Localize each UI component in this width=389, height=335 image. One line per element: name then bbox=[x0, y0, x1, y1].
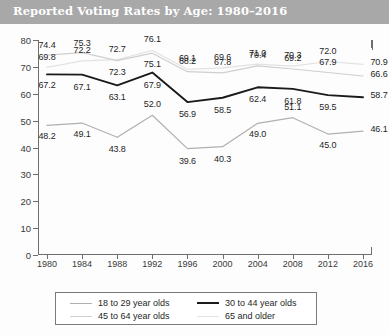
series-line-30-to-44-year-olds bbox=[47, 73, 363, 103]
page-title: Reported Voting Rates by Age: 1980–2016 bbox=[13, 4, 287, 18]
data-label: 52.0 bbox=[144, 99, 161, 109]
legend-line-icon bbox=[70, 303, 92, 304]
legend-line-icon bbox=[70, 316, 92, 317]
x-axis-tick-label: 2016 bbox=[343, 259, 383, 269]
data-label: 70.9 bbox=[370, 57, 387, 67]
data-label: 75.1 bbox=[144, 59, 161, 69]
data-label: 69.8 bbox=[38, 52, 55, 62]
y-axis-tick-label: 80 bbox=[5, 35, 31, 46]
legend-item-30-to-44-year-olds[interactable]: 30 to 44 year olds bbox=[197, 298, 297, 308]
x-axis-tick-mark bbox=[47, 255, 48, 259]
x-axis-tick-label: 2004 bbox=[238, 259, 278, 269]
data-label: 67.1 bbox=[74, 82, 91, 92]
data-label: 58.5 bbox=[214, 105, 231, 115]
y-axis-tick-label: 10 bbox=[5, 223, 31, 234]
x-axis-tick-mark bbox=[293, 255, 294, 259]
data-label: 39.6 bbox=[179, 156, 196, 166]
data-label: 72.0 bbox=[319, 46, 336, 56]
data-label: 74.4 bbox=[38, 40, 55, 50]
legend-line-icon bbox=[197, 302, 219, 304]
data-label: 48.2 bbox=[38, 131, 55, 141]
legend-label: 18 to 29 year olds bbox=[98, 298, 170, 308]
legend-line-icon bbox=[197, 316, 219, 317]
legend-item-65-and-older[interactable]: 65 and older bbox=[197, 311, 275, 321]
data-label: 72.7 bbox=[109, 44, 126, 54]
data-label: 66.6 bbox=[370, 69, 387, 79]
data-label: 67.9 bbox=[319, 57, 336, 67]
x-axis-tick-label: 1992 bbox=[132, 259, 172, 269]
data-label: 58.7 bbox=[370, 90, 387, 100]
legend-item-45-to-64-year-olds[interactable]: 45 to 64 year olds bbox=[70, 311, 170, 321]
x-axis-tick-mark bbox=[187, 255, 188, 259]
data-label: 76.1 bbox=[144, 34, 161, 44]
x-axis-tick-label: 1996 bbox=[167, 259, 207, 269]
x-axis-tick-label: 1980 bbox=[27, 259, 67, 269]
data-label: 61.8 bbox=[284, 96, 301, 106]
data-label: 46.1 bbox=[370, 124, 387, 134]
data-label: 56.9 bbox=[179, 109, 196, 119]
x-axis-tick-mark bbox=[223, 255, 224, 259]
data-label: 43.8 bbox=[109, 144, 126, 154]
x-axis-tick-label: 1984 bbox=[62, 259, 102, 269]
x-axis-tick-mark bbox=[328, 255, 329, 259]
x-axis-tick-label: 2000 bbox=[203, 259, 243, 269]
y-axis-tick-label: 40 bbox=[5, 142, 31, 153]
legend-item-18-to-29-year-olds[interactable]: 18 to 29 year olds bbox=[70, 298, 170, 308]
x-axis-tick-mark bbox=[152, 255, 153, 259]
x-axis-tick-label: 1988 bbox=[97, 259, 137, 269]
y-axis-tick-label: 60 bbox=[5, 88, 31, 99]
data-label: 49.0 bbox=[249, 129, 266, 139]
data-label: 45.0 bbox=[319, 140, 336, 150]
series-line-65-and-older bbox=[47, 50, 363, 69]
x-axis-tick-mark bbox=[117, 255, 118, 259]
y-axis-tick-label: 30 bbox=[5, 169, 31, 180]
data-label: 72.2 bbox=[74, 45, 91, 55]
chart-page: Reported Voting Rates by Age: 1980–2016 … bbox=[0, 0, 389, 335]
y-axis-tick-label: 50 bbox=[5, 115, 31, 126]
data-label: 72.3 bbox=[109, 67, 126, 77]
x-axis-tick-label: 2012 bbox=[308, 259, 348, 269]
data-label: 63.1 bbox=[109, 92, 126, 102]
data-label: 67.9 bbox=[144, 80, 161, 90]
series-line-45-to-64-year-olds bbox=[47, 53, 363, 76]
y-axis-tick-mark bbox=[33, 255, 38, 256]
data-label: 71.0 bbox=[249, 48, 266, 58]
x-axis-tick-mark bbox=[363, 255, 364, 259]
data-label: 59.5 bbox=[319, 102, 336, 112]
y-axis-tick-label: 70 bbox=[5, 61, 31, 72]
data-label: 67.2 bbox=[38, 80, 55, 90]
data-label: 69.6 bbox=[214, 52, 231, 62]
data-label: 70.3 bbox=[284, 50, 301, 60]
title-banner: Reported Voting Rates by Age: 1980–2016 bbox=[0, 0, 389, 24]
y-axis-tick-label: 20 bbox=[5, 196, 31, 207]
x-axis-tick-mark bbox=[258, 255, 259, 259]
data-label: 62.4 bbox=[249, 94, 266, 104]
legend-label: 65 and older bbox=[225, 311, 275, 321]
x-axis-tick-label: 2008 bbox=[273, 259, 313, 269]
legend-label: 45 to 64 year olds bbox=[98, 311, 170, 321]
x-axis-tick-mark bbox=[82, 255, 83, 259]
data-label: 69.1 bbox=[179, 53, 196, 63]
chart-legend: 18 to 29 year olds30 to 44 year olds45 t… bbox=[55, 292, 317, 325]
data-label: 40.3 bbox=[214, 154, 231, 164]
data-label: 49.1 bbox=[74, 129, 91, 139]
legend-label: 30 to 44 year olds bbox=[225, 298, 297, 308]
series-line-18-to-29-year-olds bbox=[47, 115, 363, 148]
